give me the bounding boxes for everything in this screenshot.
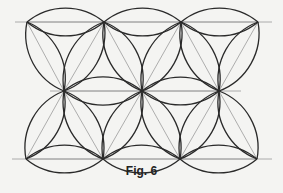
lens-arc — [142, 91, 219, 105]
lens-arc — [181, 22, 258, 36]
edge-guide-line — [180, 91, 219, 159]
lens-arc — [103, 145, 180, 159]
edge-guide-line — [103, 91, 142, 159]
lens-arc — [142, 77, 219, 91]
lens-arc — [64, 91, 142, 105]
lens-arc — [27, 8, 104, 22]
edge-guide-line — [64, 91, 103, 159]
edge-guide-line — [64, 22, 104, 91]
lens-arc — [26, 145, 103, 159]
lens-arc — [104, 8, 181, 22]
lens-arc — [27, 22, 104, 36]
lens-arc — [64, 77, 142, 91]
lens-arc — [104, 22, 181, 36]
lens-arc — [180, 145, 257, 159]
lens-arcs — [25, 8, 259, 173]
lens-arc — [181, 8, 258, 22]
figure-caption: Fig. 6 — [0, 164, 283, 178]
